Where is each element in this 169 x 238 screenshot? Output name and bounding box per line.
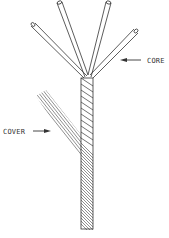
arrow-left-icon [120, 58, 127, 62]
core-stem [81, 78, 93, 236]
core-callout: CORE [120, 57, 165, 65]
core-wires [30, 0, 138, 79]
cover-strands [30, 78, 111, 172]
arrow-right-icon [44, 129, 51, 133]
wire-2 [57, 0, 88, 77]
cover-callout: COVER [3, 128, 51, 136]
wire-1 [30, 22, 87, 78]
cover-label: COVER [3, 128, 26, 136]
cable-diagram: CORE COVER [0, 0, 169, 238]
core-label: CORE [147, 57, 165, 65]
